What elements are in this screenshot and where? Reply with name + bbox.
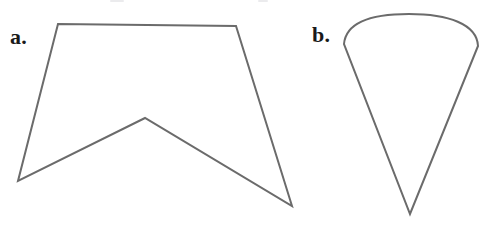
panel-label-a: a. bbox=[10, 26, 27, 48]
panel-label-b: b. bbox=[312, 24, 330, 46]
shape-b-outline bbox=[344, 14, 478, 214]
figure-container: a. b. bbox=[0, 0, 498, 231]
shape-a-outline bbox=[18, 24, 292, 206]
shapes-canvas bbox=[0, 0, 498, 231]
